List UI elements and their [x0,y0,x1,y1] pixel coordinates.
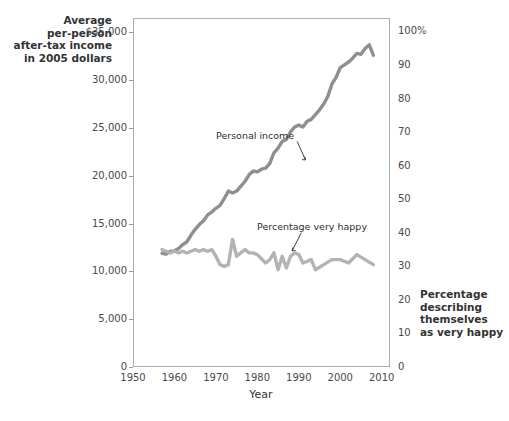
x-axis-tick-label: 1980 [237,372,277,383]
y2-axis-tick-label: 20 [398,294,438,305]
series-line-percentage-very-happy [162,239,373,269]
annotation-percentage-very-happy: Percentage very happy [257,221,367,232]
y-axis-tick-mark [129,224,133,225]
y-axis-tick-mark [129,80,133,81]
y2-axis-tick-label: 70 [398,126,438,137]
y2-axis-tick-label: 60 [398,160,438,171]
y-axis-tick-label: 30,000 [65,74,127,85]
y-axis-tick-label: $35,000 [65,26,127,37]
y-axis-tick-label: 0 [65,361,127,372]
y-axis-tick-label: 20,000 [65,170,127,181]
y-axis-tick-mark [129,176,133,177]
y-axis-tick-mark [129,128,133,129]
y-axis-tick-mark [129,367,133,368]
y-axis-tick-label: 15,000 [65,218,127,229]
annotation-personal-income: Personal income [216,130,294,141]
y-axis-tick-label: 25,000 [65,122,127,133]
y2-axis-tick-label: 100% [398,25,438,36]
x-axis-tick-label: 2000 [320,372,360,383]
left-axis-caption: Average per-person after-tax income in 2… [2,14,112,64]
y2-axis-tick-label: 50 [398,193,438,204]
chart-series-layer [133,18,390,367]
x-axis-title: Year [221,388,301,401]
chart-figure: Average per-person after-tax income in 2… [0,0,509,421]
y2-axis-tick-label: 90 [398,59,438,70]
y2-axis-tick-label: 0 [398,361,438,372]
x-axis-tick-label: 1950 [113,372,153,383]
y-axis-tick-label: 5,000 [65,313,127,324]
y-axis-tick-mark [129,32,133,33]
y2-axis-tick-label: 30 [398,260,438,271]
y2-axis-tick-label: 10 [398,327,438,338]
y2-axis-tick-label: 80 [398,93,438,104]
annotation-leader-percentage-very-happy [292,233,301,251]
annotation-leader-personal-income [297,141,305,160]
y-axis-tick-mark [129,319,133,320]
x-axis-tick-label: 1960 [154,372,194,383]
x-axis-tick-label: 1990 [279,372,319,383]
y-axis-tick-mark [129,271,133,272]
y2-axis-tick-label: 40 [398,227,438,238]
x-axis-tick-label: 2010 [362,372,402,383]
y-axis-tick-label: 10,000 [65,265,127,276]
x-axis-tick-label: 1970 [196,372,236,383]
